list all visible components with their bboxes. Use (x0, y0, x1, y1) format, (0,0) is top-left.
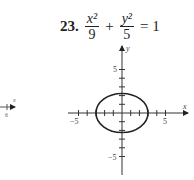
x-tick-label-pos: 5 (163, 117, 167, 126)
y-tick-label-neg: −5 (108, 153, 117, 162)
ellipse-graph: x y −5 5 5 −5 x 6 (0, 0, 194, 180)
margin-label-6: 6 (5, 112, 8, 118)
margin-label-x: x (12, 97, 16, 103)
y-axis-label: y (125, 44, 130, 53)
x-tick-label-neg: −5 (70, 117, 79, 126)
x-axis-label: x (182, 102, 187, 111)
y-tick-label-pos: 5 (113, 65, 117, 74)
